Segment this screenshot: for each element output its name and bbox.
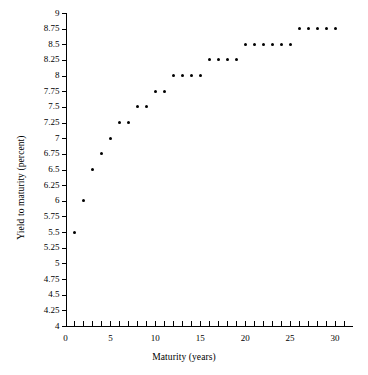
x-axis-minor-tick — [119, 321, 120, 326]
data-point — [181, 74, 184, 77]
y-axis-tick — [62, 138, 67, 139]
data-point — [271, 43, 274, 46]
x-axis-tick-label: 25 — [278, 334, 302, 343]
data-point — [325, 27, 328, 30]
y-axis-tick-label: 7.25 — [32, 118, 60, 127]
x-axis-minor-tick — [263, 321, 264, 326]
data-point — [145, 105, 148, 108]
data-point — [226, 58, 229, 61]
y-axis-tick-label: 7 — [32, 134, 60, 143]
x-axis-minor-tick — [173, 321, 174, 326]
data-point — [82, 199, 85, 202]
data-point — [127, 121, 130, 124]
data-point — [235, 58, 238, 61]
x-axis-minor-tick — [191, 321, 192, 326]
y-axis-tick — [62, 107, 67, 108]
y-axis-tick — [62, 13, 67, 14]
y-axis-tick-label: 6.25 — [32, 181, 60, 190]
data-point — [154, 90, 157, 93]
x-axis-minor-tick — [182, 321, 183, 326]
data-point — [307, 27, 310, 30]
data-point — [298, 27, 301, 30]
data-point — [208, 58, 211, 61]
x-axis-minor-tick — [335, 321, 336, 326]
y-axis-tick-label: 8 — [32, 71, 60, 80]
x-axis-minor-tick — [227, 321, 228, 326]
y-axis-tick-label: 7.75 — [32, 87, 60, 96]
data-point — [262, 43, 265, 46]
y-axis-tick — [62, 154, 67, 155]
data-point — [118, 121, 121, 124]
y-axis-tick — [62, 310, 67, 311]
x-axis-minor-tick — [299, 321, 300, 326]
x-axis-line — [66, 326, 354, 327]
x-axis-minor-tick — [317, 321, 318, 326]
data-point — [91, 168, 94, 171]
y-axis-tick-label: 6 — [32, 196, 60, 205]
y-axis-tick-label: 8.5 — [32, 40, 60, 49]
y-axis-tick-label: 6.5 — [32, 165, 60, 174]
y-axis-tick-label: 5.5 — [32, 228, 60, 237]
y-axis-tick — [62, 216, 67, 217]
x-axis-minor-tick — [137, 321, 138, 326]
data-point — [73, 231, 76, 234]
x-axis-minor-tick — [164, 321, 165, 326]
y-axis-tick — [62, 60, 67, 61]
data-point — [316, 27, 319, 30]
x-axis-tick-label: 0 — [54, 334, 78, 343]
y-axis-tick-label: 8.25 — [32, 55, 60, 64]
y-axis-tick — [62, 248, 67, 249]
x-axis-tick-label: 20 — [233, 334, 257, 343]
data-point — [136, 105, 139, 108]
x-axis-minor-tick — [209, 321, 210, 326]
x-axis-minor-tick — [74, 321, 75, 326]
data-point — [253, 43, 256, 46]
x-axis-tick-label: 15 — [188, 334, 212, 343]
data-point — [289, 43, 292, 46]
data-point — [172, 74, 175, 77]
y-axis-tick — [62, 263, 67, 264]
data-point — [199, 74, 202, 77]
y-axis-tick — [62, 170, 67, 171]
y-axis-tick — [62, 91, 67, 92]
y-axis-tick — [62, 201, 67, 202]
x-axis-minor-tick — [155, 321, 156, 326]
x-axis-tick-label: 5 — [98, 334, 122, 343]
x-axis-minor-tick — [200, 321, 201, 326]
y-axis-tick-label: 5.75 — [32, 212, 60, 221]
x-axis-minor-tick — [83, 321, 84, 326]
x-axis-minor-tick — [308, 321, 309, 326]
y-axis-tick-label: 5.25 — [32, 243, 60, 252]
x-axis-tick-label: 30 — [323, 334, 347, 343]
x-axis-minor-tick — [128, 321, 129, 326]
data-point — [109, 137, 112, 140]
y-axis-tick — [62, 185, 67, 186]
x-axis-minor-tick — [245, 321, 246, 326]
y-axis-tick — [62, 76, 67, 77]
x-axis-minor-tick — [101, 321, 102, 326]
x-axis-minor-tick — [272, 321, 273, 326]
data-point — [217, 58, 220, 61]
x-axis-minor-tick — [254, 321, 255, 326]
data-point — [280, 43, 283, 46]
data-point — [163, 90, 166, 93]
data-point — [244, 43, 247, 46]
y-axis-tick — [62, 326, 67, 327]
x-axis-minor-tick — [218, 321, 219, 326]
y-axis-tick-label: 4.75 — [32, 275, 60, 284]
x-axis-minor-tick — [110, 321, 111, 326]
data-point — [190, 74, 193, 77]
y-axis-tick-label: 9 — [32, 9, 60, 18]
y-axis-tick-label: 4 — [32, 322, 60, 331]
y-axis-title: Yield to maturity (percent) — [14, 0, 28, 375]
y-axis-tick — [62, 232, 67, 233]
y-axis-tick — [62, 295, 67, 296]
y-axis-tick — [62, 279, 67, 280]
x-axis-minor-tick — [281, 321, 282, 326]
data-point — [100, 152, 103, 155]
x-axis-minor-tick — [290, 321, 291, 326]
y-axis-tick-label: 4.5 — [32, 290, 60, 299]
y-axis-tick — [62, 29, 67, 30]
y-axis-tick-label: 7.5 — [32, 102, 60, 111]
y-axis-tick — [62, 123, 67, 124]
